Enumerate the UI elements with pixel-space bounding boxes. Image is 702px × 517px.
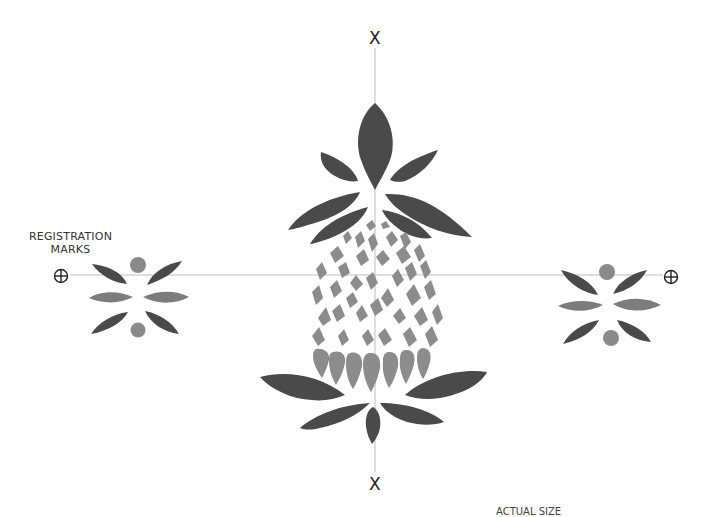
pineapple-crown [288, 103, 472, 244]
registration-marks-label: REGISTRATION MARKS [18, 230, 123, 256]
right-registration-mark-icon [665, 271, 678, 284]
bottom-center-x-mark: X [369, 476, 381, 493]
top-center-x-mark: X [369, 30, 381, 47]
left-flower-motif [89, 257, 189, 338]
registration-label-line1: REGISTRATION [18, 230, 123, 243]
actual-size-label: ACTUAL SIZE [496, 506, 561, 517]
pineapple-fruit-diamonds [312, 220, 443, 392]
registration-label-line2: MARKS [18, 243, 123, 256]
left-registration-mark-icon [55, 270, 68, 283]
right-flower-motif [558, 264, 661, 346]
